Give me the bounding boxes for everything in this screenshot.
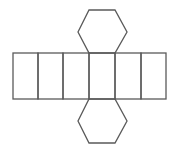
bottom-hexagon-face [78, 99, 127, 143]
hexagonal-prism-net [0, 0, 175, 152]
top-hexagon-face [78, 10, 127, 53]
rectangular-faces-strip [13, 53, 166, 99]
rectangular-face-3 [63, 53, 89, 99]
rectangular-face-5 [115, 53, 141, 99]
rectangular-face-6 [141, 53, 166, 99]
rectangular-face-2 [38, 53, 63, 99]
rectangular-face-1 [13, 53, 38, 99]
rectangular-face-4 [89, 53, 115, 99]
